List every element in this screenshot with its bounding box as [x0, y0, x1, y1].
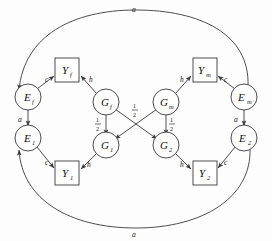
node-E_f[interactable]: E f	[15, 84, 41, 110]
edge-label-gm-ym-h: h	[180, 75, 184, 84]
node-G_2-label: G	[160, 139, 168, 151]
edge-curve-bottom-a	[19, 148, 250, 228]
node-G_2[interactable]: G 2	[153, 132, 179, 158]
edge-label-e1-y1-c: c	[45, 158, 49, 167]
node-E_1-sub: 1	[32, 139, 35, 146]
frac-den-2: 2	[170, 126, 173, 132]
node-G_1-sub: 1	[110, 146, 113, 153]
node-E_m[interactable]: E m	[231, 84, 257, 110]
edge-label-ef-e1-a: a	[18, 115, 22, 124]
node-G_f[interactable]: G f	[93, 89, 119, 115]
node-E_2-label: E	[238, 132, 246, 144]
edge-label-gf-g1-half: 1 2	[95, 117, 101, 132]
node-G_m-label: G	[160, 96, 168, 108]
node-Y_m[interactable]: Y m	[193, 58, 217, 82]
node-G_1-label: G	[101, 139, 109, 151]
frac-den-1: 2	[96, 126, 99, 132]
node-E_2[interactable]: E 2	[231, 125, 257, 151]
edge-label-cross-half: 1 2	[132, 103, 138, 118]
edge-label-e2-y2-c: c	[224, 158, 228, 167]
edge-label-g1-y1-h: h	[87, 160, 91, 169]
edge-label-group: a a a a c h c h c h c h 1 2 1 2	[18, 5, 238, 239]
path-diagram: E f E 1 Y f Y 1	[0, 0, 272, 241]
node-G_1[interactable]: G 1	[93, 132, 119, 158]
node-Y_m-sub: m	[206, 71, 211, 78]
edge-label-ef-yf-c: c	[45, 75, 49, 84]
diagram-canvas: E f E 1 Y f Y 1	[0, 0, 272, 241]
edge-label-gf-yf-h: h	[89, 75, 93, 84]
edge-label-g2-y2-h: h	[180, 160, 184, 169]
node-E_m-sub: m	[247, 98, 252, 105]
frac-num-2: 1	[170, 117, 173, 123]
frac-num-1: 1	[96, 117, 99, 123]
node-group: E f E 1 Y f Y 1	[15, 58, 257, 185]
edge-label-gm-g2-half: 1 2	[169, 117, 175, 132]
node-G_f-label: G	[101, 96, 109, 108]
node-G_m[interactable]: G m	[153, 89, 179, 115]
node-E_1-label: E	[23, 132, 31, 144]
edge-label-em-e2-a: a	[234, 115, 238, 124]
node-Y_1-sub: 1	[70, 174, 73, 181]
node-E_f-label: E	[23, 91, 31, 103]
node-Y_1[interactable]: Y 1	[55, 161, 79, 185]
node-E_m-label: E	[237, 91, 245, 103]
node-Y_f[interactable]: Y f	[55, 58, 79, 82]
node-E_1[interactable]: E 1	[15, 125, 41, 151]
node-Y_2[interactable]: Y 2	[193, 161, 217, 185]
edge-label-curve-bottom-a: a	[132, 230, 136, 239]
edge-label-curve-top-a: a	[132, 5, 136, 14]
node-G_m-sub: m	[169, 103, 174, 110]
frac-den-3: 2	[133, 112, 136, 118]
frac-num-3: 1	[133, 103, 136, 109]
